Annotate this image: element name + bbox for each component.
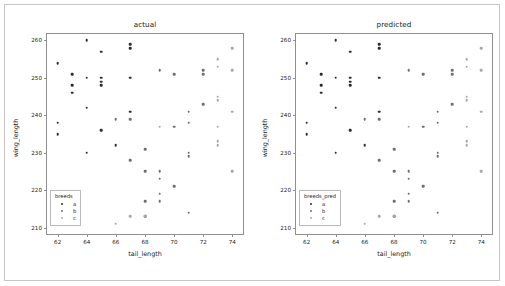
data-point xyxy=(465,140,468,143)
data-point xyxy=(115,144,118,147)
data-point xyxy=(144,148,147,151)
y-tick-mark xyxy=(44,190,46,191)
data-point xyxy=(56,62,59,65)
data-point xyxy=(231,170,234,173)
x-tick-mark xyxy=(203,235,204,237)
legend-box: breeds_predabc xyxy=(299,190,341,226)
data-point xyxy=(187,121,190,124)
y-tick-label: 250 xyxy=(271,75,291,81)
data-point xyxy=(407,200,410,203)
y-axis-label-predicted: wing_length xyxy=(261,78,269,198)
x-tick-label: 66 xyxy=(361,239,368,245)
legend-item-c[interactable]: c xyxy=(55,215,76,222)
y-tick-label: 240 xyxy=(271,112,291,118)
x-tick-mark xyxy=(307,235,308,237)
data-point xyxy=(305,133,308,136)
y-tick-label: 210 xyxy=(271,225,291,231)
y-tick-label: 220 xyxy=(271,187,291,193)
legend-item-c[interactable]: c xyxy=(304,215,336,222)
data-point xyxy=(202,103,205,106)
y-tick-mark xyxy=(44,228,46,229)
data-point xyxy=(71,92,74,95)
legend-item-b[interactable]: b xyxy=(55,208,76,215)
data-point xyxy=(407,170,410,173)
data-point xyxy=(144,200,147,203)
data-point xyxy=(436,155,439,158)
legend-item-b[interactable]: b xyxy=(304,208,336,215)
data-point xyxy=(407,69,410,72)
data-point xyxy=(465,58,468,61)
data-point xyxy=(85,77,88,80)
data-point xyxy=(378,77,381,80)
data-point xyxy=(436,121,439,124)
legend-item-a[interactable]: a xyxy=(304,201,336,208)
data-point xyxy=(407,193,410,196)
data-point xyxy=(378,118,381,121)
y-tick-mark xyxy=(293,228,295,229)
y-tick-mark xyxy=(293,190,295,191)
x-tick-label: 74 xyxy=(229,239,236,245)
x-tick-label: 74 xyxy=(478,239,485,245)
data-point xyxy=(173,125,176,128)
x-tick-label: 68 xyxy=(141,239,148,245)
data-point xyxy=(422,73,425,76)
legend-label: c xyxy=(322,215,325,221)
y-tick-label: 240 xyxy=(22,112,42,118)
y-tick-label: 260 xyxy=(271,37,291,43)
data-point xyxy=(378,43,381,46)
panel-title-actual: actual xyxy=(46,20,244,29)
data-point xyxy=(349,50,352,53)
y-tick-mark xyxy=(44,115,46,116)
data-point xyxy=(422,125,425,128)
data-point xyxy=(158,200,161,203)
y-tick-mark xyxy=(44,153,46,154)
x-tick-label: 72 xyxy=(200,239,207,245)
data-point xyxy=(465,99,468,102)
data-point xyxy=(480,69,483,72)
data-point xyxy=(129,215,132,218)
data-point xyxy=(393,200,396,203)
data-point xyxy=(378,110,381,113)
panel-actual: actual wing_length tail_length 626466687… xyxy=(0,0,256,286)
data-point xyxy=(231,69,234,72)
legend-title: breeds xyxy=(55,193,76,199)
x-tick-label: 68 xyxy=(390,239,397,245)
x-tick-mark xyxy=(394,235,395,237)
x-tick-mark xyxy=(116,235,117,237)
x-axis-label-predicted: tail_length xyxy=(295,250,493,258)
data-point xyxy=(158,178,161,181)
data-point xyxy=(334,77,337,80)
y-tick-mark xyxy=(44,78,46,79)
data-point xyxy=(129,159,132,162)
x-axis-label-actual: tail_length xyxy=(46,250,244,258)
x-tick-mark xyxy=(365,235,366,237)
data-point xyxy=(216,65,219,68)
legend-label: b xyxy=(73,208,76,214)
legend-marker-icon xyxy=(304,203,318,206)
data-point xyxy=(407,178,410,181)
data-point xyxy=(71,73,74,76)
data-point xyxy=(129,47,132,50)
data-point xyxy=(364,118,367,121)
x-tick-mark xyxy=(58,235,59,237)
data-point xyxy=(364,222,367,225)
legend-item-a[interactable]: a xyxy=(55,201,76,208)
legend-label: b xyxy=(322,208,325,214)
data-point xyxy=(202,73,205,76)
data-point xyxy=(158,170,161,173)
data-point xyxy=(173,73,176,76)
y-tick-label: 230 xyxy=(22,150,42,156)
x-tick-mark xyxy=(481,235,482,237)
x-tick-label: 66 xyxy=(112,239,119,245)
y-tick-mark xyxy=(293,153,295,154)
data-point xyxy=(56,133,59,136)
data-point xyxy=(378,159,381,162)
data-point xyxy=(216,125,219,128)
legend-marker-icon xyxy=(55,217,69,220)
data-point xyxy=(320,73,323,76)
x-tick-mark xyxy=(174,235,175,237)
data-point xyxy=(320,92,323,95)
y-tick-label: 260 xyxy=(22,37,42,43)
data-point xyxy=(100,50,103,53)
x-tick-label: 70 xyxy=(420,239,427,245)
